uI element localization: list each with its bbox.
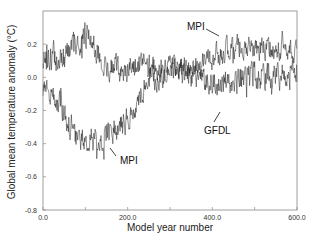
y-tick-label: -0.6 <box>25 173 37 180</box>
x-tick-label: 0.0 <box>38 214 48 221</box>
x-tick-label: 600.0 <box>288 214 306 221</box>
chart-canvas: -0.8-0.6-0.4-0.20.00.2 0.0200.0400.0600.… <box>0 0 316 245</box>
x-tick-label: 200.0 <box>119 214 137 221</box>
x-axis-title: Model year number <box>127 222 214 233</box>
y-tick-label: -0.2 <box>25 107 37 114</box>
annotation-leader-gfdl <box>214 112 220 122</box>
plot-area <box>43 23 297 160</box>
annotation-gfdl: GFDL <box>204 125 231 136</box>
annotation-mpi-upper: MPI <box>187 21 205 32</box>
annotation-leader-mpi-upper <box>206 29 219 36</box>
annotation-leader-mpi-lower <box>110 148 116 156</box>
y-axis-title: Global mean temperature anomaly (°C) <box>6 25 17 200</box>
x-tick-label: 400.0 <box>204 214 222 221</box>
y-tick-label: 0.0 <box>27 74 37 81</box>
annotation-mpi-lower: MPI <box>120 155 138 166</box>
x-axis-ticks: 0.0200.0400.0600.0 <box>38 207 306 221</box>
y-tick-label: -0.4 <box>25 140 37 147</box>
series-line-gfdl <box>43 23 297 98</box>
y-tick-label: -0.8 <box>25 207 37 214</box>
y-tick-label: 0.2 <box>27 41 37 48</box>
